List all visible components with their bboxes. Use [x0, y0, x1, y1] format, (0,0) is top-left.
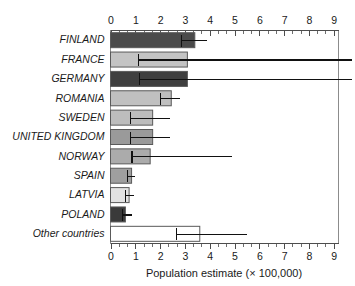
category-label: LATVIA	[69, 188, 104, 200]
bottom-axis-tick-label: 8	[306, 250, 312, 262]
top-axis-tick-label: 0	[108, 14, 114, 26]
bottom-axis-tick-label: 4	[207, 250, 213, 262]
chart-canvas: 0123456789 0123456789 FINLANDFRANCEGERMA…	[0, 0, 355, 286]
category-label: FRANCE	[61, 53, 105, 65]
top-axis-tick-label: 5	[232, 14, 238, 26]
bottom-axis-tick-label: 7	[282, 250, 288, 262]
x-axis-title: Population estimate (× 100,000)	[146, 267, 302, 279]
category-label: GERMANY	[51, 72, 105, 84]
bottom-axis-tick-label: 2	[158, 250, 164, 262]
top-axis-tick-label: 4	[207, 14, 213, 26]
x-axis-title-group: Population estimate (× 100,000)	[146, 267, 302, 279]
bar-chart: 0123456789 0123456789 FINLANDFRANCEGERMA…	[0, 0, 355, 286]
category-label: Other countries	[33, 227, 106, 239]
bottom-axis-tick-label: 1	[133, 250, 139, 262]
top-axis-tick-label: 8	[306, 14, 312, 26]
category-label: UNITED KINGDOM	[12, 130, 104, 142]
top-axis-tick-label: 9	[331, 14, 337, 26]
bottom-axis-tick-label: 6	[257, 250, 263, 262]
category-label: SWEDEN	[58, 111, 105, 123]
bottom-axis: 0123456789	[108, 244, 338, 262]
category-label: POLAND	[61, 208, 105, 220]
category-labels-group: FINLANDFRANCEGERMANYROMANIASWEDENUNITED …	[12, 33, 105, 239]
bottom-axis-tick-label: 5	[232, 250, 238, 262]
bottom-axis-tick-label: 3	[182, 250, 188, 262]
top-axis-tick-label: 6	[257, 14, 263, 26]
top-axis-tick-label: 2	[158, 14, 164, 26]
category-label: FINLAND	[60, 33, 105, 45]
category-label: SPAIN	[74, 169, 105, 181]
bottom-axis-tick-label: 0	[108, 250, 114, 262]
top-axis-tick-label: 7	[282, 14, 288, 26]
bottom-axis-tick-label: 9	[331, 250, 337, 262]
category-label: ROMANIA	[55, 92, 104, 104]
top-axis-tick-label: 1	[133, 14, 139, 26]
category-label: NORWAY	[58, 150, 105, 162]
top-axis-tick-label: 3	[182, 14, 188, 26]
